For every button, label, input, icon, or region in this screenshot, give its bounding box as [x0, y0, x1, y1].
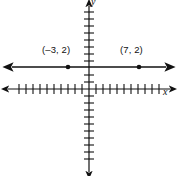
coordinate-plane-figure: (–3, 2) (7, 2) x y [0, 0, 178, 176]
point-label-left: (–3, 2) [42, 44, 70, 55]
y-axis-label: y [91, 0, 95, 7]
point-label-right: (7, 2) [120, 44, 143, 55]
point-marker-left [66, 65, 71, 70]
coordinate-plane-svg [0, 0, 178, 176]
point-marker-right [137, 65, 142, 70]
x-axis-label: x [163, 86, 167, 97]
